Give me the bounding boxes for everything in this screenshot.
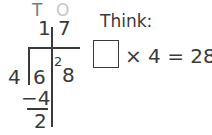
quotient-ones: 7	[58, 18, 71, 38]
dividend-tens: 6	[33, 67, 46, 87]
answer-box[interactable]	[93, 40, 119, 68]
quotient-tens: 1	[38, 18, 51, 38]
think-equation: × 4 = 28	[125, 46, 212, 66]
subtraction: −4	[21, 88, 50, 108]
dividend-ones: 8	[62, 65, 75, 85]
remainder: 2	[34, 111, 47, 131]
think-label: Think:	[100, 13, 152, 30]
division-bracket	[28, 47, 30, 85]
division-bar	[28, 47, 80, 49]
place-value-divider	[51, 27, 53, 127]
divisor: 4	[8, 67, 21, 87]
